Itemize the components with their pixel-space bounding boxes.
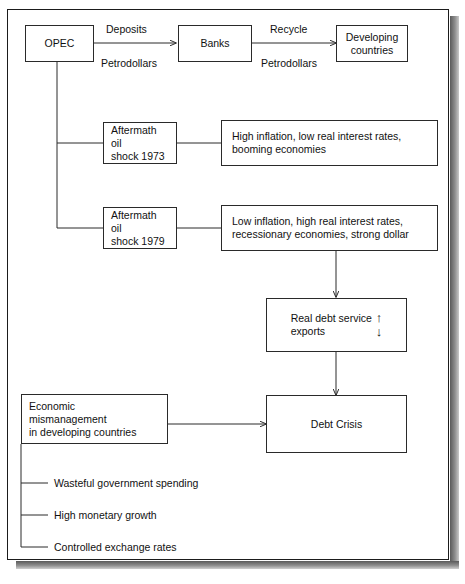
cause-item-wasteful-government-spending: Wasteful government spending bbox=[54, 477, 198, 489]
arrow-down-icon: ↓ bbox=[376, 326, 383, 338]
node-shock-1979: Aftermath oil shock 1979 bbox=[103, 207, 177, 249]
node-shock-1979-line2: shock 1979 bbox=[111, 235, 169, 248]
node-effects-1973-line2: booming economies bbox=[232, 143, 430, 156]
node-economic-mismanagement: Economic mismanagement in developing cou… bbox=[21, 394, 168, 444]
debt-service-ratio-expression: Real debt service exports ↑ ↓ bbox=[291, 312, 383, 338]
node-opec: OPEC bbox=[25, 25, 94, 62]
node-shock-1973-line1: Aftermath oil bbox=[111, 124, 169, 150]
node-economic-mismanagement-line1: Economic bbox=[29, 400, 160, 413]
node-developing-countries-line2: countries bbox=[351, 44, 394, 57]
debt-service-ratio-terms: Real debt service exports bbox=[291, 312, 372, 338]
flowchart-diagram: OPEC Banks Developing countries Deposits… bbox=[8, 10, 450, 561]
edge-label-petrodollars-right: Petrodollars bbox=[261, 57, 317, 69]
node-debt-crisis: Debt Crisis bbox=[266, 395, 407, 453]
node-shock-1973: Aftermath oil shock 1973 bbox=[103, 122, 177, 164]
cause-item-controlled-exchange-rates: Controlled exchange rates bbox=[54, 541, 177, 553]
arrow-up-icon: ↑ bbox=[376, 312, 383, 324]
node-opec-label: OPEC bbox=[45, 37, 75, 50]
node-effects-1979-line1: Low inflation, high real interest rates, bbox=[232, 215, 430, 228]
node-banks-label: Banks bbox=[200, 37, 229, 50]
node-economic-mismanagement-line2: mismanagement bbox=[29, 413, 160, 426]
node-developing-countries: Developing countries bbox=[336, 25, 408, 62]
node-banks: Banks bbox=[178, 25, 252, 62]
edge-label-recycle: Recycle bbox=[270, 23, 307, 35]
figure-frame: OPEC Banks Developing countries Deposits… bbox=[7, 9, 449, 560]
node-developing-countries-line1: Developing bbox=[346, 31, 399, 44]
figure-drop-shadow-right bbox=[450, 16, 459, 567]
debt-service-denominator: exports bbox=[291, 325, 372, 338]
node-effects-1973: High inflation, low real interest rates,… bbox=[221, 120, 438, 166]
node-economic-mismanagement-line3: in developing countries bbox=[29, 426, 160, 439]
node-shock-1979-line1: Aftermath oil bbox=[111, 209, 169, 235]
debt-service-trend-arrows: ↑ ↓ bbox=[376, 312, 383, 338]
node-shock-1973-line2: shock 1973 bbox=[111, 150, 169, 163]
node-debt-service-ratio: Real debt service exports ↑ ↓ bbox=[266, 298, 407, 352]
node-effects-1979: Low inflation, high real interest rates,… bbox=[221, 205, 438, 251]
debt-service-numerator: Real debt service bbox=[291, 312, 372, 325]
edge-label-petrodollars-left: Petrodollars bbox=[101, 57, 157, 69]
node-debt-crisis-label: Debt Crisis bbox=[311, 418, 362, 431]
node-effects-1973-line1: High inflation, low real interest rates, bbox=[232, 130, 430, 143]
node-effects-1979-line2: recessionary economies, strong dollar bbox=[232, 228, 430, 241]
cause-item-high-monetary-growth: High monetary growth bbox=[54, 509, 157, 521]
figure-drop-shadow-bottom bbox=[16, 561, 459, 569]
edge-label-deposits: Deposits bbox=[106, 23, 147, 35]
